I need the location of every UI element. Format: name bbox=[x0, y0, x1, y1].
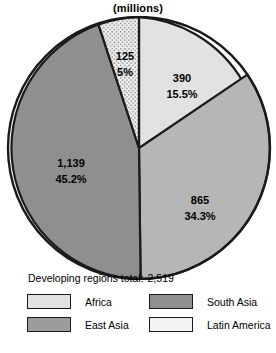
chart-title: (millions) bbox=[0, 2, 276, 14]
slice-label-east-asia-value: 1,139 bbox=[57, 157, 85, 169]
slice-label-south-asia-value: 865 bbox=[191, 194, 209, 206]
slice-label-south-asia-percent: 34.3% bbox=[184, 210, 215, 222]
legend-total-row: Developing regions total:2,519 bbox=[28, 272, 255, 284]
legend-label-east-asia: East Asia bbox=[83, 319, 149, 331]
slice-label-africa-percent: 15.5% bbox=[166, 88, 197, 100]
legend-swatch-latin-america[interactable] bbox=[149, 317, 193, 332]
legend-label-latin-america: Latin America bbox=[205, 319, 271, 331]
legend-grid: Africa South Asia East Asia Latin Americ… bbox=[27, 290, 255, 336]
slice-label-latin-america-percent: 5% bbox=[117, 66, 133, 78]
chart-legend: Developing regions total:2,519 Africa So… bbox=[27, 272, 255, 336]
legend-swatch-africa[interactable] bbox=[27, 294, 71, 309]
legend-label-south-asia: South Asia bbox=[205, 296, 271, 308]
legend-swatch-east-asia[interactable] bbox=[27, 317, 71, 332]
legend-total-value: 2,519 bbox=[148, 272, 174, 284]
pie-svg: 390 15.5% 865 34.3% 1,139 45.2% 125 5% bbox=[4, 16, 272, 280]
legend-total-label: Developing regions total: bbox=[28, 272, 144, 284]
legend-label-africa: Africa bbox=[83, 296, 149, 308]
pie-chart-graphic: 390 15.5% 865 34.3% 1,139 45.2% 125 5% bbox=[4, 16, 272, 280]
slice-label-latin-america-value: 125 bbox=[116, 50, 134, 62]
slice-label-east-asia-percent: 45.2% bbox=[55, 173, 86, 185]
pie-chart-figure: (millions) 390 15.5% 865 34.3% bbox=[0, 0, 276, 353]
legend-swatch-south-asia[interactable] bbox=[149, 294, 193, 309]
slice-label-africa-value: 390 bbox=[173, 72, 191, 84]
